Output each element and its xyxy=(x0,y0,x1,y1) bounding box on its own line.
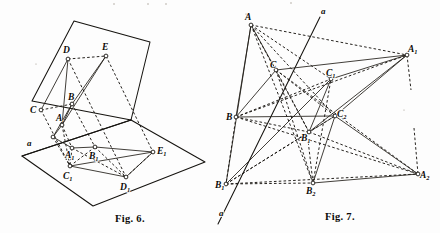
label-fig7-B: B xyxy=(225,112,232,122)
node-fig7-B1 xyxy=(307,130,311,134)
label-fig7-B2: B2 xyxy=(305,186,316,197)
fig6-edge-A1-B1 xyxy=(72,147,95,148)
label-fig7-C1-sub: 1 xyxy=(332,72,335,79)
label-axis-a-fig7-top: a xyxy=(321,6,326,16)
label-point-A: A xyxy=(55,113,62,123)
label-fig7-A: A xyxy=(244,12,251,22)
fig7-dash-B-A1 xyxy=(236,55,407,117)
label-point-A1: A1 xyxy=(64,150,75,161)
label-point-C: C xyxy=(30,105,37,115)
fig7-dash-B1low-B2 xyxy=(226,183,313,184)
fig7-dash-C1-A1-drop xyxy=(407,55,411,90)
label-fig7-C2-sub: 2 xyxy=(342,113,347,120)
node-fig7-B2 xyxy=(311,181,315,185)
node-fig7-B xyxy=(234,115,238,119)
label-axis-a-fig6: a xyxy=(27,138,32,148)
label-fig7-A2-base: A xyxy=(419,170,426,180)
label-fig7-B1: B1 xyxy=(300,133,311,144)
fig6-base-plane-outline xyxy=(22,120,205,206)
node-E xyxy=(104,54,108,58)
label-fig7-B1-low: B1 xyxy=(214,180,225,191)
label-point-D1: D1 xyxy=(119,182,130,193)
fig7-dash-B-A2 xyxy=(236,117,418,174)
label-fig7-B2-sub: 2 xyxy=(311,190,316,197)
fig6-dash-D-E xyxy=(68,56,106,59)
node-C xyxy=(39,108,43,112)
label-point-A1-base: A xyxy=(64,150,71,160)
label-fig7-B1-sub: 1 xyxy=(307,137,310,144)
label-fig7-B2-base: B xyxy=(305,186,312,196)
fig7-dash-B-B1 xyxy=(236,117,309,132)
label-fig7-A2: A2 xyxy=(419,170,430,181)
figure-6-group: D E C B A A1 B1 C1 D1 E1 a Fig. 6. xyxy=(22,21,205,224)
label-fig7-A1-sub: 1 xyxy=(414,48,417,55)
fig7-dash-C-A2 xyxy=(276,70,418,174)
label-point-B: B xyxy=(67,92,74,102)
fig7-axis-line-a xyxy=(218,17,320,224)
label-fig7-C: C xyxy=(270,60,277,70)
label-fig7-B1-low-sub: 1 xyxy=(221,184,224,191)
label-fig7-C1: C1 xyxy=(326,68,336,79)
label-fig7-A1-base: A xyxy=(407,44,414,54)
scan-speckles xyxy=(35,2,404,110)
label-fig7-B1-low-base: B xyxy=(214,180,221,190)
fig6-dash-B1-D1 xyxy=(95,147,126,177)
label-point-C1-sub: 1 xyxy=(69,175,72,182)
fig6-back-plane-outline xyxy=(32,21,150,120)
node-B xyxy=(70,102,74,106)
fig6-edge-B1-E1 xyxy=(95,147,153,152)
node-C1 xyxy=(68,164,72,168)
node-A xyxy=(60,123,64,127)
node-E1 xyxy=(151,150,155,154)
fig7-dash-A2-drop xyxy=(414,128,418,174)
node-axis-vertex xyxy=(51,135,55,139)
fig6-dash-A1-D1 xyxy=(72,148,126,177)
label-fig7-A2-sub: 2 xyxy=(425,174,430,181)
label-point-B1-sub: 1 xyxy=(95,155,98,162)
fig7-edge-B-C2 xyxy=(236,116,335,117)
label-point-B1-base: B xyxy=(88,151,95,161)
caption-fig7: Fig. 7. xyxy=(325,211,355,222)
label-fig7-C2: C2 xyxy=(337,109,347,120)
fig7-edge-C2-A1b xyxy=(335,55,407,116)
label-point-B1: B1 xyxy=(88,151,99,162)
label-point-D1-base: D xyxy=(119,182,127,192)
node-D1 xyxy=(124,175,128,179)
label-point-C1: C1 xyxy=(63,171,73,182)
geometry-figures-plate: D E C B A A1 B1 C1 D1 E1 a Fig. 6. xyxy=(0,0,440,233)
label-axis-a-fig7-bottom: a xyxy=(219,208,224,218)
label-fig7-A1: A1 xyxy=(407,44,418,55)
node-B1 xyxy=(93,145,97,149)
node-fig7-A xyxy=(249,23,253,27)
fig7-dash-B1low-B1 xyxy=(226,132,309,184)
fig6-dash-A-A1 xyxy=(62,125,72,148)
caption-fig6: Fig. 6. xyxy=(115,213,145,224)
figure-7-group: A C B A1 C1 B1 A2 C2 B2 B1 xyxy=(214,6,430,224)
figures-canvas: D E C B A A1 B1 C1 D1 E1 a Fig. 6. xyxy=(0,0,440,233)
fig6-edge-E-B xyxy=(72,56,106,104)
label-point-E1: E1 xyxy=(156,146,167,157)
node-D xyxy=(66,57,70,61)
fig6-edge-C1-D1 xyxy=(70,166,126,177)
fig7-dash-A-B2 xyxy=(251,25,313,183)
label-point-D1-sub: 1 xyxy=(127,186,130,193)
fig6-dash-C-B xyxy=(41,104,72,110)
label-point-E: E xyxy=(101,42,108,52)
label-fig7-B1-base: B xyxy=(300,133,307,143)
fig7-dash-C-B2 xyxy=(276,70,313,183)
fig7-dash-B1-A2 xyxy=(309,132,418,174)
fig7-edge-A1-C1 xyxy=(331,55,407,79)
label-point-A1-sub: 1 xyxy=(71,154,74,161)
label-point-D: D xyxy=(62,45,70,55)
node-fig7-B1-low xyxy=(224,182,228,186)
fig6-dash-E-E1 xyxy=(106,56,153,152)
label-point-E1-base: E xyxy=(156,146,163,156)
label-point-E1-sub: 1 xyxy=(163,150,166,157)
